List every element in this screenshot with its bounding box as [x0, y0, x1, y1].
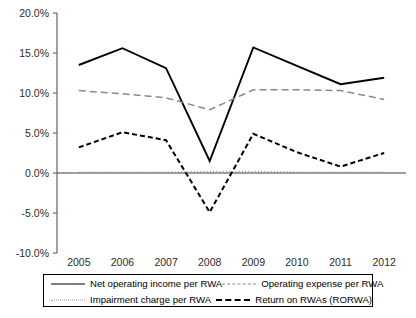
legend-item-impairment-charge: Impairment charge per RWA: [44, 292, 216, 307]
y-axis: 20.0%15.0%10.0%5.0%0.0%-5.0%-10.0%: [16, 7, 57, 259]
black-dashed-line-swatch-icon: [216, 295, 250, 305]
x-tick-label: 2012: [373, 256, 397, 268]
x-tick-label: 2007: [154, 256, 178, 268]
legend-item-rorwa: Return on RWAs (RORWA): [216, 292, 372, 307]
y-tick-label: 0.0%: [25, 167, 49, 179]
series-line-0: [79, 47, 384, 161]
x-axis: 20052006200720082009201020112012: [57, 173, 406, 268]
y-tick-label: 20.0%: [19, 7, 49, 19]
y-tick-label: 10.0%: [19, 87, 49, 99]
chart-legend: Net operating income per RWA Operating e…: [43, 274, 373, 307]
y-tick-label: -5.0%: [22, 207, 49, 219]
x-tick-label: 2006: [111, 256, 135, 268]
x-tick-label: 2011: [329, 256, 352, 268]
legend-row-1: Net operating income per RWA Operating e…: [44, 276, 372, 291]
legend-label-net-operating-income: Net operating income per RWA: [90, 278, 222, 289]
y-tick-label: 5.0%: [25, 127, 49, 139]
legend-row-2: Impairment charge per RWA Return on RWAs…: [44, 292, 372, 307]
line-chart-plot: 20.0%15.0%10.0%5.0%0.0%-5.0%-10.0% 20052…: [0, 0, 416, 318]
legend-label-impairment-charge: Impairment charge per RWA: [90, 294, 211, 305]
legend-label-rorwa: Return on RWAs (RORWA): [255, 294, 372, 305]
x-tick-label: 2010: [285, 256, 309, 268]
x-tick-label: 2005: [67, 256, 91, 268]
y-tick-label: 15.0%: [19, 47, 49, 59]
x-tick-label: 2008: [198, 256, 222, 268]
dotted-line-swatch-icon: [51, 295, 85, 305]
gray-dashed-line-swatch-icon: [222, 279, 256, 289]
legend-label-operating-expense: Operating expense per RWA: [261, 278, 383, 289]
chart-container: 20.0%15.0%10.0%5.0%0.0%-5.0%-10.0% 20052…: [0, 0, 416, 318]
x-tick-label: 2009: [242, 256, 266, 268]
y-tick-label: -10.0%: [16, 247, 49, 259]
data-series-group: [79, 47, 384, 212]
legend-item-operating-expense: Operating expense per RWA: [222, 276, 383, 291]
legend-item-net-operating-income: Net operating income per RWA: [44, 276, 222, 291]
solid-line-swatch-icon: [51, 279, 85, 289]
